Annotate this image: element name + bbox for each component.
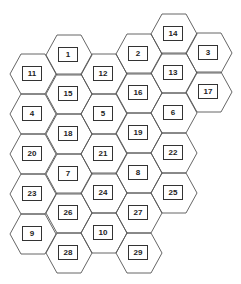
cell-label: 28 (58, 245, 78, 260)
cell-label: 12 (93, 66, 113, 81)
cell-label: 15 (58, 86, 78, 101)
hexagon-grid (0, 0, 241, 284)
cell-label: 8 (128, 165, 148, 180)
cell-label: 7 (58, 166, 78, 181)
cell-label: 23 (22, 186, 42, 201)
cell-label: 22 (163, 145, 183, 160)
cell-label: 9 (22, 226, 42, 241)
cell-label: 4 (22, 106, 42, 121)
cell-label: 24 (93, 185, 113, 200)
cell-label: 20 (22, 146, 42, 161)
cell-label: 11 (22, 66, 42, 81)
cell-label: 6 (163, 105, 183, 120)
cell-label: 14 (163, 26, 183, 41)
cell-label: 25 (163, 185, 183, 200)
cell-label: 16 (128, 85, 148, 100)
cell-label: 13 (163, 65, 183, 80)
cell-label: 21 (93, 146, 113, 161)
cell-label: 17 (198, 84, 218, 99)
cell-label: 19 (128, 125, 148, 140)
cell-label: 29 (128, 245, 148, 260)
cell-label: 18 (58, 126, 78, 141)
cell-label: 5 (93, 106, 113, 121)
cell-label: 26 (58, 205, 78, 220)
cell-label: 3 (198, 45, 218, 60)
cell-label: 10 (93, 225, 113, 240)
cell-label: 27 (128, 205, 148, 220)
cell-label: 1 (58, 47, 78, 62)
cell-label: 2 (128, 46, 148, 61)
